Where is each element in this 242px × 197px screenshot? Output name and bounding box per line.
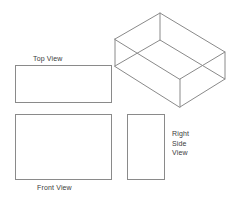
top-view-label: Top View	[33, 54, 62, 63]
front-view-label: Front View	[37, 183, 72, 192]
right-side-view-label-line-2: Side	[172, 140, 187, 147]
isometric-box-pictorial	[105, 5, 240, 120]
right-side-view-label-line-1: Right	[172, 130, 189, 137]
top-view-rectangle	[15, 65, 112, 103]
right-side-view-rectangle	[127, 114, 165, 180]
right-side-view-label: RightSideView	[172, 129, 189, 158]
box-silhouette	[115, 13, 225, 107]
front-view-rectangle	[15, 114, 112, 180]
drawing-sheet: Top View Front View RightSideView	[0, 0, 242, 197]
right-side-view-label-line-3: View	[172, 149, 188, 156]
